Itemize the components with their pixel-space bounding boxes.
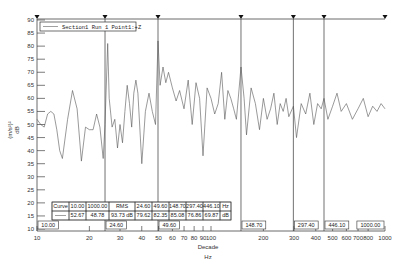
table-header-cell: 24.60: [137, 203, 151, 209]
table-value-cell: 76.86: [188, 212, 202, 218]
legend: Section1 Run 1 Point1:+Z: [40, 22, 142, 31]
y-axis-db-label: dB: [14, 126, 20, 133]
table-value-cell: 79.62: [137, 212, 151, 218]
y-tick-label: 80: [27, 43, 34, 49]
y-tick-label: 75: [27, 56, 34, 62]
y-tick-label: 60: [27, 95, 34, 101]
cursor-lines[interactable]: 10.0024.6049.60148.70297.40446.101000.00: [35, 15, 388, 231]
cursor-value-label: 148.70: [245, 222, 262, 228]
cursor-marker-icon[interactable]: [103, 15, 108, 19]
x-tick-label: 1000: [378, 235, 392, 241]
y-axis: 1015202530354045505560657075808590: [27, 17, 45, 232]
y-tick-label: 85: [27, 30, 34, 36]
y-tick-label: 25: [27, 187, 34, 193]
y-tick-label: 30: [27, 174, 34, 180]
x-tick-label: 600: [341, 235, 352, 241]
x-tick-label: 70: [181, 235, 188, 241]
y-tick-label: 65: [27, 82, 34, 88]
cursor-marker-icon[interactable]: [291, 15, 296, 19]
x-tick-label: 20: [86, 235, 93, 241]
x-tick-label: 60: [169, 235, 176, 241]
legend-label: Section1 Run 1 Point1:+Z: [62, 24, 142, 31]
x-axis-unit: Hz: [204, 254, 211, 260]
y-axis-unit-label: (m/s²)²: [7, 121, 13, 139]
x-tick-label: 30: [117, 235, 124, 241]
x-tick-label: 300: [289, 235, 300, 241]
cursor-value-label: 49.60: [162, 222, 176, 228]
table-value-cell: 48.78: [91, 212, 105, 218]
table-header-cell: 148.70: [169, 203, 186, 209]
y-tick-label: 40: [27, 148, 34, 154]
table-header-cell: 297.40: [186, 203, 203, 209]
x-tick-label: 800: [363, 235, 374, 241]
table-value-cell: 69.87: [205, 212, 219, 218]
table-value-cell: 82.35: [154, 212, 168, 218]
x-tick-label: 10: [34, 235, 41, 241]
y-tick-label: 90: [27, 17, 34, 23]
x-tick-label: 400: [311, 235, 322, 241]
y-tick-label: 45: [27, 135, 34, 141]
y-tick-label: 35: [27, 161, 34, 167]
cursor-marker-icon[interactable]: [156, 15, 161, 19]
table-value-cell: 85.08: [171, 212, 185, 218]
table-header-cell: 446.10: [203, 203, 220, 209]
spectrum-chart: 1015202530354045505560657075808590 10203…: [0, 0, 397, 271]
table-header-cell: Curve: [53, 203, 68, 209]
y-tick-label: 55: [27, 108, 34, 114]
x-axis-label: Decade: [198, 244, 219, 250]
y-tick-label: 15: [27, 213, 34, 219]
cursor-marker-icon[interactable]: [322, 15, 327, 19]
cursor-table: Curve10.0052.671000.0048.78RMS93.73 dB24…: [52, 202, 231, 220]
table-value-cell: dB: [222, 212, 229, 218]
y-tick-label: 70: [27, 69, 34, 75]
cursor-value-label: 10.00: [41, 222, 55, 228]
y-tick-label: 50: [27, 122, 34, 128]
table-header-cell: Hz: [222, 203, 229, 209]
x-tick-label: 50: [155, 235, 162, 241]
cursor-value-label: 297.40: [298, 222, 315, 228]
y-tick-label: 20: [27, 200, 34, 206]
table-header-cell: 10.00: [71, 203, 85, 209]
x-tick-label: 200: [258, 235, 269, 241]
x-tick-label: 40: [138, 235, 145, 241]
x-tick-label: 100: [206, 235, 217, 241]
cursor-marker-icon[interactable]: [238, 15, 243, 19]
cursor-value-label: 24.60: [109, 222, 123, 228]
x-tick-label: 80: [191, 235, 198, 241]
table-header-cell: 49.60: [154, 203, 168, 209]
x-tick-label: 500: [328, 235, 339, 241]
cursor-marker-icon[interactable]: [383, 15, 388, 19]
cursor-value-label: 446.10: [328, 222, 345, 228]
table-header-cell: 1000.00: [88, 203, 108, 209]
cursor-value-label: 1000.00: [361, 222, 381, 228]
y-tick-label: 10: [27, 226, 34, 232]
table-header-cell: RMS: [116, 203, 129, 209]
x-tick-label: 700: [353, 235, 364, 241]
cursor-marker-icon[interactable]: [35, 15, 40, 19]
series-line: [37, 41, 385, 164]
table-value-cell: 93.73 dB: [111, 212, 133, 218]
table-value-cell: 52.67: [71, 212, 85, 218]
